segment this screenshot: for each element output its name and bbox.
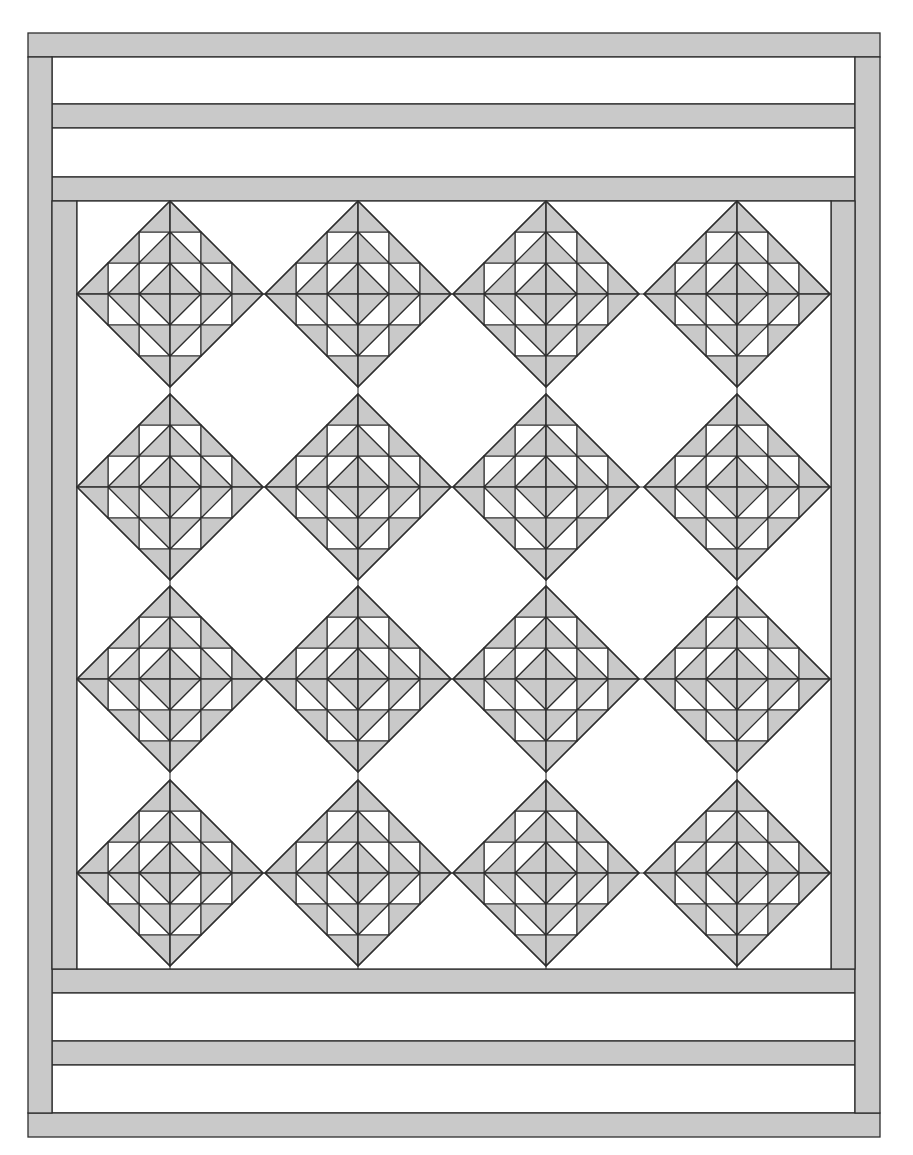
top-border-strip-1 — [28, 33, 880, 57]
quilt-diagram — [0, 0, 913, 1155]
bottom-border-strip-4 — [52, 1065, 855, 1113]
bottom-border-strip-3 — [52, 1041, 855, 1065]
left-inner-border — [52, 201, 77, 969]
top-border-strip-5 — [52, 177, 855, 201]
top-border-strip-2 — [52, 57, 855, 104]
right-outer-border — [855, 57, 880, 1113]
bottom-border-strip-2 — [52, 993, 855, 1041]
top-border-strip-4 — [52, 128, 855, 177]
bottom-border-strip-1 — [52, 969, 855, 993]
right-inner-border — [831, 201, 855, 969]
top-border-strip-3 — [52, 104, 855, 128]
left-outer-border — [28, 57, 52, 1113]
bottom-border-strip-5 — [28, 1113, 880, 1137]
